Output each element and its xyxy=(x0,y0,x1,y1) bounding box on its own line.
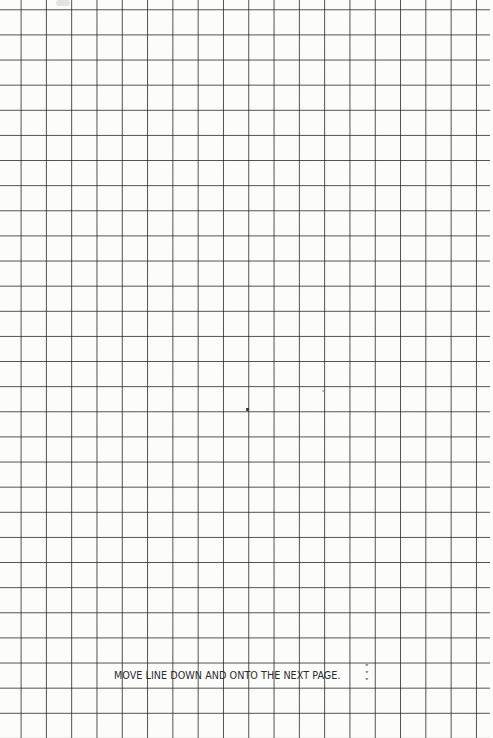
grid-lines xyxy=(0,0,491,738)
graph-paper-page: MOVE LINE DOWN AND ONTO THE NEXT PAGE. ˅… xyxy=(0,0,493,738)
instruction-text: MOVE LINE DOWN AND ONTO THE NEXT PAGE. xyxy=(114,668,341,682)
chevron-down-icon: ˅ xyxy=(365,678,369,685)
ink-dot xyxy=(246,408,249,411)
paper-speck xyxy=(322,390,324,392)
chevron-down-icon: ˅ ˅ ˅ xyxy=(362,664,372,685)
paper-smudge xyxy=(56,0,70,6)
